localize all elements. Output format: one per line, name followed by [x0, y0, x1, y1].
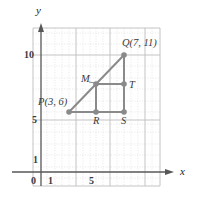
point-label-M: M: [81, 74, 90, 85]
point-label-S: S: [121, 116, 126, 127]
tick-y-1: 1: [33, 155, 38, 165]
tick-y-5: 5: [32, 115, 37, 125]
point-Q: [121, 52, 127, 58]
point-P: [66, 109, 72, 115]
figure-svg: [0, 0, 197, 210]
point-label-P: P(3, 6): [38, 97, 67, 108]
y-axis-arrow: [38, 23, 44, 32]
point-M: [93, 81, 99, 87]
point-S: [121, 109, 127, 115]
y-axis-label: y: [36, 5, 41, 16]
x-axis-label: x: [180, 166, 185, 177]
tick-x-1: 1: [48, 176, 53, 186]
point-label-Q: Q(7, 11): [122, 38, 157, 49]
point-T: [121, 81, 127, 87]
tick-origin: 0: [31, 176, 36, 186]
point-R: [93, 109, 99, 115]
point-label-R: R: [93, 116, 99, 127]
tick-y-10: 10: [24, 50, 34, 60]
tick-x-5: 5: [89, 176, 94, 186]
coordinate-plane-figure: y x 0 1 5 1 5 10 Q(7, 11) P(3, 6) M T R …: [0, 0, 197, 210]
point-label-T: T: [129, 80, 135, 91]
x-axis-arrow: [165, 169, 174, 175]
